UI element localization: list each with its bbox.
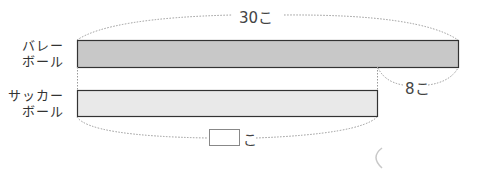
soccer-bar	[78, 91, 378, 117]
difference-bracket-right	[428, 68, 458, 85]
soccer-label-line1: サッカー	[6, 88, 64, 104]
difference-bracket-left	[378, 68, 403, 85]
total-bracket-right	[284, 15, 458, 40]
unknown-bracket-right	[256, 117, 377, 138]
answer-paren-mark	[376, 148, 382, 168]
volleyball-bar	[78, 41, 459, 68]
soccer-label-line2: ボール	[6, 104, 64, 120]
unknown-bracket-left	[77, 117, 208, 138]
total-label: 30こ	[239, 6, 273, 27]
soccer-label: サッカー ボール	[6, 88, 64, 120]
difference-label: 8こ	[405, 77, 430, 98]
volleyball-label: バレー ボール	[14, 38, 64, 70]
volleyball-label-line1: バレー	[14, 38, 64, 54]
total-bracket-left	[77, 15, 232, 40]
unknown-suffix-label: こ	[243, 129, 257, 149]
volleyball-label-line2: ボール	[14, 54, 64, 70]
answer-box[interactable]	[210, 130, 240, 146]
